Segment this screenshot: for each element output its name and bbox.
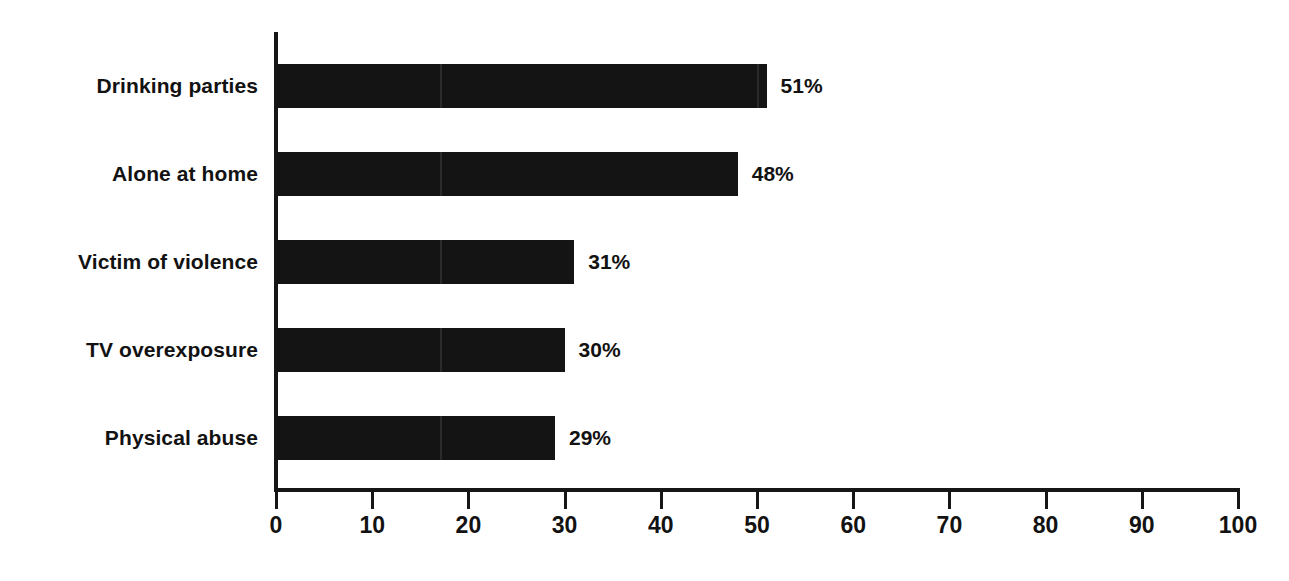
x-axis-tick-label: 40 (648, 514, 674, 537)
x-axis-tick (1141, 490, 1144, 509)
x-axis-tick (756, 490, 759, 509)
bar-scan-seam (440, 240, 442, 284)
category-label: Physical abuse (105, 427, 258, 448)
bar (276, 152, 738, 196)
x-axis-tick (660, 490, 663, 509)
bar-scan-seam (440, 328, 442, 372)
x-axis-tick (1045, 490, 1048, 509)
x-axis-tick-label: 10 (359, 514, 385, 537)
x-axis-tick-label: 70 (937, 514, 963, 537)
x-axis-tick (371, 490, 374, 509)
x-axis-tick (564, 490, 567, 509)
value-label: 48% (752, 163, 794, 184)
bar (276, 328, 565, 372)
x-axis-tick-label: 0 (270, 514, 283, 537)
x-axis-tick-label: 90 (1129, 514, 1155, 537)
bar (276, 64, 767, 108)
x-axis-tick (852, 490, 855, 509)
bar-scan-seam (440, 64, 442, 108)
category-label: Victim of violence (78, 251, 258, 272)
bar-scan-seam (440, 152, 442, 196)
x-axis-tick (948, 490, 951, 509)
category-label: Alone at home (112, 163, 258, 184)
x-axis-tick-label: 60 (840, 514, 866, 537)
bar-scan-seam (757, 64, 759, 108)
x-axis-tick-label: 50 (744, 514, 770, 537)
x-axis-tick (275, 490, 278, 509)
x-axis-tick-label: 80 (1033, 514, 1059, 537)
value-label: 51% (781, 75, 823, 96)
x-axis-tick-label: 30 (552, 514, 578, 537)
value-label: 29% (569, 427, 611, 448)
x-axis-tick (467, 490, 470, 509)
bar-chart: Drinking partiesAlone at homeVictim of v… (0, 0, 1289, 581)
bar (276, 416, 555, 460)
category-label: Drinking parties (97, 75, 258, 96)
x-axis-tick-label: 20 (456, 514, 482, 537)
x-axis-tick (1237, 490, 1240, 509)
category-label: TV overexposure (86, 339, 258, 360)
value-label: 31% (588, 251, 630, 272)
x-axis-tick-label: 100 (1219, 514, 1257, 537)
bar (276, 240, 574, 284)
bar-scan-seam (440, 416, 442, 460)
value-label: 30% (579, 339, 621, 360)
cut-off-text-remnant (0, 0, 1289, 4)
